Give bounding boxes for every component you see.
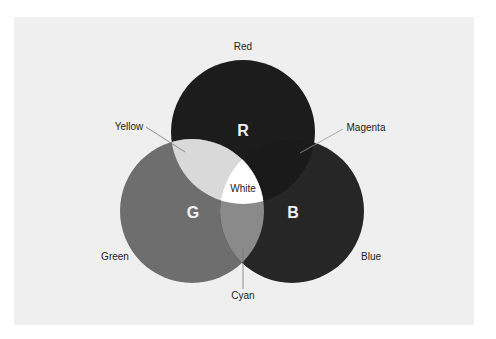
label-white: White bbox=[230, 184, 256, 194]
label-yellow: Yellow bbox=[115, 122, 144, 132]
label-magenta: Magenta bbox=[347, 123, 386, 133]
letter-g: G bbox=[187, 205, 199, 221]
letter-b: B bbox=[287, 205, 299, 221]
label-green: Green bbox=[101, 252, 129, 262]
label-blue: Blue bbox=[361, 252, 381, 262]
label-red: Red bbox=[234, 42, 252, 52]
letter-r: R bbox=[237, 123, 249, 139]
label-cyan: Cyan bbox=[231, 291, 254, 301]
